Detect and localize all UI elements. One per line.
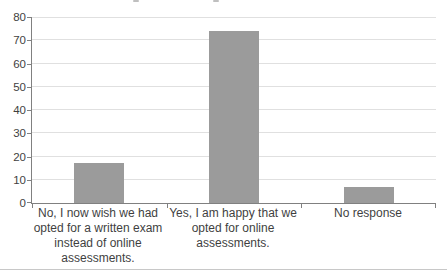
cropped-title-fragment: [213, 0, 219, 2]
category-label-line: opted for online: [153, 221, 313, 236]
gridline-y-80: [32, 17, 436, 18]
y-tick-label-30: 30: [0, 127, 26, 140]
y-tick-0: [27, 202, 31, 203]
plot-area: [31, 17, 436, 204]
y-tick-label-70: 70: [0, 34, 26, 47]
y-tick-80: [27, 17, 31, 18]
page-rule-divider: [0, 269, 447, 270]
y-tick-label-20: 20: [0, 151, 26, 164]
y-tick-30: [27, 133, 31, 134]
bar-1: [74, 163, 124, 203]
bar-3: [344, 187, 394, 203]
y-tick-label-80: 80: [0, 11, 26, 24]
bar-chart-figure: 01020304050607080 No, I now wish we hado…: [0, 0, 447, 272]
y-tick-label-10: 10: [0, 174, 26, 187]
y-tick-label-40: 40: [0, 104, 26, 117]
y-tick-label-50: 50: [0, 81, 26, 94]
y-tick-label-60: 60: [0, 58, 26, 71]
category-label-3: No response: [288, 206, 447, 221]
bar-2: [209, 31, 259, 203]
category-label-line: assessments.: [153, 236, 313, 251]
y-tick-20: [27, 157, 31, 158]
y-tick-50: [27, 87, 31, 88]
y-tick-40: [27, 110, 31, 111]
category-label-line: assessments.: [18, 251, 178, 266]
y-tick-10: [27, 180, 31, 181]
y-tick-60: [27, 64, 31, 65]
y-tick-70: [27, 40, 31, 41]
cropped-title-fragment: [133, 0, 139, 2]
category-label-line: No response: [288, 206, 447, 221]
